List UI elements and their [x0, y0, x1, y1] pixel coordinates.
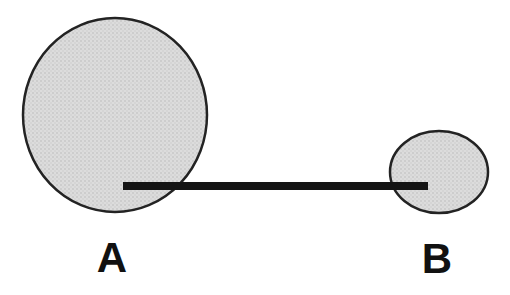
label-a: A — [97, 234, 127, 281]
circle-b — [390, 131, 488, 213]
label-b: B — [422, 235, 452, 282]
diagram-canvas: A B — [0, 0, 510, 295]
two-circle-diagram: A B — [0, 0, 510, 295]
